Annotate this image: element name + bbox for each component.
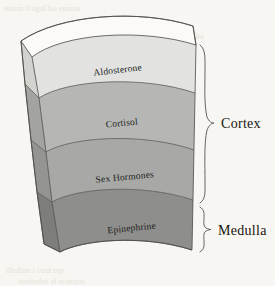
medulla-brace (200, 207, 211, 252)
band-epinephrine (52, 189, 193, 252)
cortex-brace (200, 45, 214, 203)
diagram-canvas: Aldosterone Cortisol Sex Hormones Epinep… (0, 0, 275, 286)
group-label-cortex: Cortex (221, 116, 261, 131)
group-label-medulla: Medulla (218, 223, 267, 238)
adrenal-gland-diagram: sutem il ogul lus enoiza onoizanimretedn… (0, 0, 275, 286)
